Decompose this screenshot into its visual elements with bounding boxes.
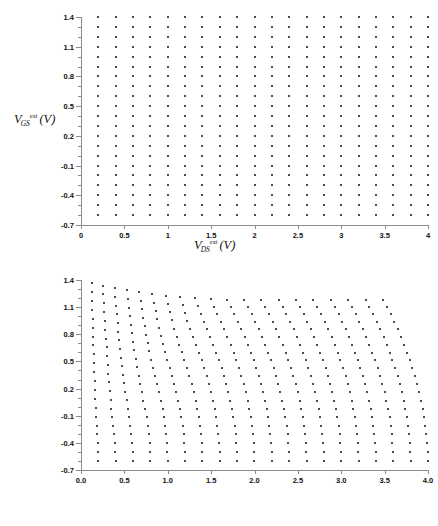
data-point (260, 383, 262, 385)
data-point (423, 416, 425, 418)
data-point (254, 194, 256, 196)
data-point (323, 115, 325, 117)
data-point (236, 16, 238, 18)
data-point (273, 367, 275, 369)
data-point (288, 75, 290, 77)
data-point (131, 442, 133, 444)
data-point (113, 433, 115, 435)
data-point (219, 125, 221, 127)
data-point (97, 194, 99, 196)
data-point (307, 367, 309, 369)
data-point (103, 311, 105, 313)
data-point (236, 95, 238, 97)
data-point (167, 105, 169, 107)
data-point (392, 16, 394, 18)
data-point (368, 344, 370, 346)
data-point (306, 46, 308, 48)
data-point (400, 336, 402, 338)
data-point (115, 16, 117, 18)
y-tick-major (76, 280, 81, 281)
data-point (340, 214, 342, 216)
data-point (282, 306, 284, 308)
data-point (201, 204, 203, 206)
data-point (271, 184, 273, 186)
data-point (201, 165, 203, 167)
data-point (124, 391, 126, 393)
data-point (255, 367, 257, 369)
data-point (201, 125, 203, 127)
data-point (132, 46, 134, 48)
data-point (144, 408, 146, 410)
x-tick (385, 225, 386, 229)
data-point (340, 125, 342, 127)
data-point (201, 85, 203, 87)
data-point (329, 383, 331, 385)
data-point (414, 375, 416, 377)
data-point (392, 204, 394, 206)
data-point (155, 310, 157, 312)
y-tick-minor (78, 316, 81, 317)
data-point (340, 194, 342, 196)
data-point (115, 36, 117, 38)
data-point (288, 36, 290, 38)
data-point (230, 344, 232, 346)
y-tick-label: 1.1 (49, 42, 74, 51)
data-point (236, 135, 238, 137)
data-point (200, 313, 202, 315)
data-point (288, 460, 290, 462)
data-point (91, 309, 93, 311)
data-point (201, 451, 203, 453)
data-point (95, 416, 97, 418)
data-point (358, 66, 360, 68)
data-point (150, 359, 152, 361)
data-point (288, 145, 290, 147)
x-tick-label: 4.0 (423, 476, 433, 485)
data-point (358, 85, 360, 87)
data-point (149, 135, 151, 137)
data-point (219, 214, 221, 216)
data-point (410, 95, 412, 97)
data-point (160, 400, 162, 402)
data-point (184, 312, 186, 314)
data-point (219, 105, 221, 107)
y-tick-minor (78, 215, 81, 216)
data-point (424, 425, 426, 427)
data-point (247, 306, 249, 308)
x-tick-label: 0.5 (119, 476, 129, 485)
data-point (323, 174, 325, 176)
data-point (94, 380, 96, 382)
data-point (416, 383, 418, 385)
data-point (184, 214, 186, 216)
data-point (184, 184, 186, 186)
data-point (149, 26, 151, 28)
data-point (271, 85, 273, 87)
data-point (410, 36, 412, 38)
data-point (288, 174, 290, 176)
data-point (270, 359, 272, 361)
data-point (236, 214, 238, 216)
y-tick-label: -0.4 (49, 191, 74, 200)
data-point (390, 313, 392, 315)
data-point (167, 85, 169, 87)
data-point (288, 194, 290, 196)
data-point (283, 408, 285, 410)
data-point (162, 408, 164, 410)
data-point (203, 321, 205, 323)
data-point (410, 214, 412, 216)
data-point (386, 344, 388, 346)
data-point (365, 336, 367, 338)
data-point (306, 95, 308, 97)
data-point (182, 425, 184, 427)
data-point (375, 460, 377, 462)
data-point (410, 204, 412, 206)
data-point (166, 451, 168, 453)
data-point (128, 307, 130, 309)
figure-bias-point-maps: 00.511.522.533.541.41.10.80.50.2-0.1-0.4… (0, 0, 438, 526)
data-point (327, 328, 329, 330)
data-point (287, 433, 289, 435)
data-point (275, 375, 277, 377)
data-point (92, 327, 94, 329)
data-point (358, 56, 360, 58)
data-point (236, 56, 238, 58)
data-point (271, 460, 273, 462)
